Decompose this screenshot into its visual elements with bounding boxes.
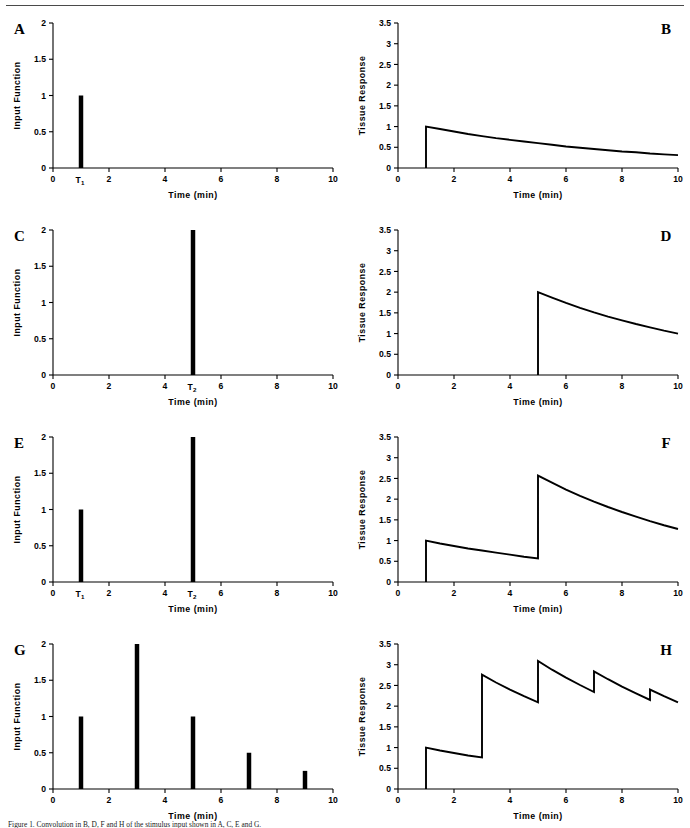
panel-letter-e: E <box>14 435 24 451</box>
y-tick-label: 1 <box>386 329 391 339</box>
x-tick-label: 8 <box>620 588 625 598</box>
x-tick-label: 6 <box>564 588 569 598</box>
x-tick-label: 10 <box>328 174 338 184</box>
y-tick-label: 2 <box>41 225 46 235</box>
x-tick-label: 2 <box>452 381 457 391</box>
y-axis-title: Tissue Response <box>357 470 367 550</box>
y-tick-label: 2 <box>386 701 391 711</box>
panel-letter-a: A <box>14 21 25 37</box>
bar <box>191 717 195 790</box>
y-tick-label: 1.5 <box>34 675 46 685</box>
x-axis-ticks: 0246810 <box>396 582 683 598</box>
x-tick-label: 10 <box>328 795 338 805</box>
panel-letter-g: G <box>14 642 26 658</box>
x-tick-label: 2 <box>107 588 112 598</box>
y-axis-title: Input Function <box>12 61 22 129</box>
svg-text:T2: T2 <box>187 589 197 600</box>
y-tick-label: 2.5 <box>379 60 391 70</box>
x-tick-label: 0 <box>51 588 56 598</box>
bar-series <box>79 644 307 789</box>
x-tick-label: 4 <box>508 174 513 184</box>
time-marker-label: T2 <box>187 589 197 600</box>
x-tick-label: 2 <box>107 381 112 391</box>
y-tick-label: 3.5 <box>379 18 391 28</box>
svg-text:T1: T1 <box>75 589 85 600</box>
chart-panel-d: 00.511.522.533.50246810Time (min)Tissue … <box>345 212 690 419</box>
bar <box>79 717 83 790</box>
y-tick-label: 3 <box>386 660 391 670</box>
axis-lines <box>53 23 333 168</box>
x-tick-label: 6 <box>564 795 569 805</box>
y-tick-label: 1 <box>41 91 46 101</box>
y-axis-ticks: 00.511.522.533.5 <box>379 639 398 794</box>
y-axis-title: Input Function <box>12 682 22 750</box>
y-tick-label: 3 <box>386 453 391 463</box>
x-tick-label: 4 <box>163 588 168 598</box>
y-tick-label: 1.5 <box>379 515 391 525</box>
y-tick-label: 0 <box>386 784 391 794</box>
x-tick-label: 0 <box>396 795 401 805</box>
y-tick-label: 2.5 <box>379 267 391 277</box>
x-tick-label: 10 <box>673 174 683 184</box>
y-tick-label: 1.5 <box>34 468 46 478</box>
x-tick-label: 0 <box>396 174 401 184</box>
x-tick-label: 6 <box>219 795 224 805</box>
x-axis-title: Time (min) <box>168 397 217 407</box>
x-tick-label: 2 <box>452 795 457 805</box>
x-axis-ticks: 0246810 <box>396 168 683 184</box>
chart-panel-a: 00.511.520246810Time (min)Input Function… <box>0 5 345 212</box>
y-axis-title: Tissue Response <box>357 263 367 343</box>
response-curve <box>426 127 678 168</box>
y-axis-ticks: 00.511.522.533.5 <box>379 432 398 587</box>
svg-text:T2: T2 <box>187 382 197 393</box>
y-tick-label: 3 <box>386 39 391 49</box>
y-tick-label: 1 <box>386 122 391 132</box>
x-axis-title: Time (min) <box>513 604 562 614</box>
svg-text:T1: T1 <box>75 175 85 186</box>
panel-letter-b: B <box>661 21 671 37</box>
x-axis-title: Time (min) <box>513 190 562 200</box>
x-tick-label: 6 <box>219 381 224 391</box>
y-axis-ticks: 00.511.52 <box>34 225 53 380</box>
y-tick-label: 2 <box>386 494 391 504</box>
x-axis-ticks: 0246810 <box>396 789 683 805</box>
bar <box>191 437 195 582</box>
chart-panel-f: 00.511.522.533.50246810Time (min)Tissue … <box>345 419 690 626</box>
y-axis-title: Input Function <box>12 475 22 543</box>
x-axis-ticks: 0246810 <box>51 168 338 184</box>
y-axis-ticks: 00.511.52 <box>34 432 53 587</box>
y-tick-label: 1 <box>41 505 46 515</box>
x-axis-title: Time (min) <box>513 397 562 407</box>
figure-panel-grid: 00.511.520246810Time (min)Input Function… <box>0 0 690 828</box>
y-tick-label: 0 <box>41 784 46 794</box>
y-tick-label: 0.5 <box>379 142 391 152</box>
y-tick-label: 3.5 <box>379 225 391 235</box>
y-tick-label: 2.5 <box>379 474 391 484</box>
x-tick-label: 4 <box>508 381 513 391</box>
y-tick-label: 1.5 <box>34 54 46 64</box>
y-axis-ticks: 00.511.522.533.5 <box>379 18 398 173</box>
time-marker-label: T1 <box>75 175 85 186</box>
x-tick-label: 0 <box>396 588 401 598</box>
y-tick-label: 2.5 <box>379 681 391 691</box>
y-axis-ticks: 00.511.52 <box>34 18 53 173</box>
x-axis-ticks: 0246810 <box>396 375 683 391</box>
x-tick-label: 10 <box>328 381 338 391</box>
x-tick-label: 2 <box>452 588 457 598</box>
x-tick-label: 4 <box>163 381 168 391</box>
y-tick-label: 0.5 <box>379 763 391 773</box>
y-axis-title: Input Function <box>12 268 22 336</box>
y-tick-label: 0 <box>386 370 391 380</box>
y-tick-label: 0 <box>41 577 46 587</box>
x-tick-label: 4 <box>163 795 168 805</box>
figure-caption: Figure 1. Convolution in B, D, F and H o… <box>8 820 684 828</box>
x-tick-label: 6 <box>564 174 569 184</box>
time-marker-label: T2 <box>187 382 197 393</box>
y-tick-label: 3.5 <box>379 639 391 649</box>
y-tick-label: 0.5 <box>379 349 391 359</box>
y-axis-title: Tissue Response <box>357 56 367 136</box>
y-tick-label: 3 <box>386 246 391 256</box>
x-tick-label: 2 <box>107 174 112 184</box>
x-tick-label: 10 <box>673 588 683 598</box>
bar-series <box>79 437 195 582</box>
